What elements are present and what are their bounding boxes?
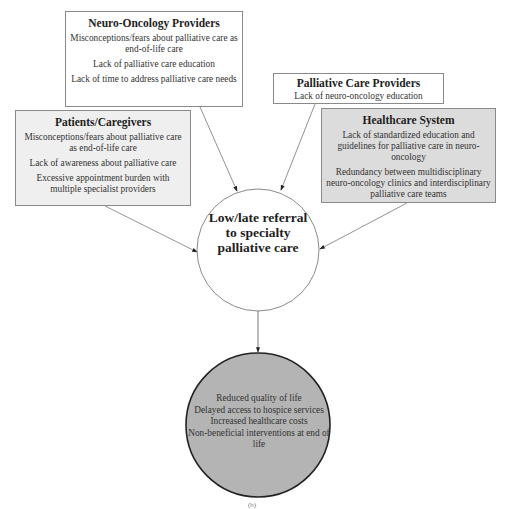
outcome-item: Delayed access to hospice services (188, 405, 330, 417)
palliative-care-providers-box: Palliative Care Providers Lack of neuro-… (273, 73, 444, 104)
arrow-palliative-to-center (281, 104, 315, 190)
outcome-item: Reduced quality of life (188, 393, 330, 405)
box-title: Healthcare System (326, 114, 491, 126)
healthcare-system-box: Healthcare System Lack of standardized e… (321, 108, 496, 203)
patients-caregivers-box: Patients/Caregivers Misconceptions/fears… (15, 110, 191, 206)
center-label: Low/late referral to specialty palliativ… (205, 210, 311, 255)
box-title: Palliative Care Providers (278, 77, 439, 89)
box-item: Redundancy between multidisciplinary neu… (326, 167, 491, 200)
arrow-patients-to-center (105, 206, 197, 252)
box-title: Neuro-Oncology Providers (70, 17, 238, 29)
box-item: Lack of neuro-oncology education (278, 91, 439, 102)
outcomes-list: Reduced quality of life Delayed access t… (188, 393, 330, 451)
box-item: Excessive appointment burden with multip… (20, 173, 186, 195)
box-title: Patients/Caregivers (20, 116, 186, 128)
box-item: Misconceptions/fears about palliative ca… (70, 33, 238, 55)
box-item: Lack of palliative care education (70, 59, 238, 70)
box-item: Lack of standardized education and guide… (326, 130, 491, 163)
arrow-healthcare-to-center (320, 203, 407, 249)
outcome-item: Increased healthcare costs (188, 416, 330, 428)
neuro-oncology-providers-box: Neuro-Oncology Providers Misconceptions/… (65, 11, 243, 107)
arrow-neuro-to-center (200, 107, 237, 191)
box-item: Misconceptions/fears about palliative ca… (20, 132, 186, 154)
box-item: Lack of time to address palliative care … (70, 74, 238, 85)
figure-label: (b) (248, 501, 256, 509)
outcome-item: Non-beneficial interventions at end of l… (188, 428, 330, 451)
box-item: Lack of awareness about palliative care (20, 158, 186, 169)
